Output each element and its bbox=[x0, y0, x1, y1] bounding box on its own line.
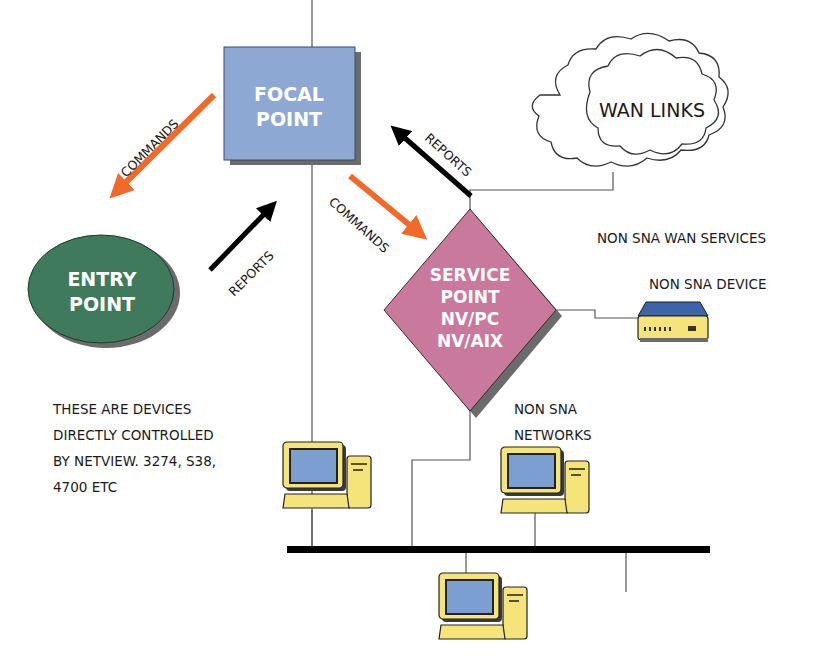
non-sna-device-icon[interactable] bbox=[638, 302, 708, 342]
computer-icon[interactable] bbox=[283, 442, 371, 508]
arrow-commands-to-entry: COMMANDS bbox=[118, 95, 214, 190]
wan-links-cloud[interactable]: WAN LINKS bbox=[532, 33, 728, 166]
wan-link-line bbox=[470, 172, 613, 210]
note-line-2: DIRECTLY CONTROLLED bbox=[53, 427, 214, 443]
arrow-reports-from-entry: REPORTS bbox=[210, 208, 277, 299]
network-link-line bbox=[412, 410, 470, 549]
computer-icon[interactable] bbox=[439, 573, 527, 639]
service-point-node[interactable]: SERVICE POINT NV/PC NV/AIX bbox=[384, 209, 562, 418]
entry-point-label-2: POINT bbox=[69, 293, 135, 315]
focal-point-label-2: POINT bbox=[256, 108, 322, 130]
device-link-line bbox=[557, 310, 640, 318]
reports-label-2: REPORTS bbox=[422, 130, 475, 180]
focal-point-node[interactable]: FOCAL POINT bbox=[224, 47, 361, 165]
network-bus bbox=[287, 546, 710, 553]
wan-links-label: WAN LINKS bbox=[599, 99, 705, 121]
service-point-label-2: POINT bbox=[440, 287, 499, 307]
reports-label-1: REPORTS bbox=[226, 248, 277, 299]
netview-architecture-diagram: WAN LINKS FOCAL POINT ENTRY POINT SERVIC… bbox=[0, 0, 835, 666]
diagram-canvas: WAN LINKS FOCAL POINT ENTRY POINT SERVIC… bbox=[0, 0, 835, 666]
arrow-reports-from-service: REPORTS bbox=[398, 130, 475, 196]
non-sna-networks-label-1: NON SNA bbox=[514, 401, 578, 417]
arrow-commands-to-service: COMMANDS bbox=[326, 176, 418, 256]
service-point-label-3: NV/PC bbox=[441, 309, 500, 329]
note-line-1: THESE ARE DEVICES bbox=[52, 401, 191, 417]
computer-icon[interactable] bbox=[501, 447, 589, 513]
non-sna-device-label: NON SNA DEVICE bbox=[649, 276, 766, 292]
service-point-label-1: SERVICE bbox=[430, 265, 511, 285]
note-line-4: 4700 ETC bbox=[53, 479, 117, 495]
focal-point-label-1: FOCAL bbox=[254, 83, 324, 105]
service-point-label-4: NV/AIX bbox=[437, 331, 503, 351]
note-line-3: BY NETVIEW. 3274, S38, bbox=[53, 453, 216, 469]
commands-label-1: COMMANDS bbox=[118, 116, 182, 180]
entry-point-label-1: ENTRY bbox=[67, 268, 136, 290]
non-sna-wan-services-label: NON SNA WAN SERVICES bbox=[597, 230, 766, 246]
non-sna-networks-label-2: NETWORKS bbox=[514, 427, 592, 443]
entry-point-node[interactable]: ENTRY POINT bbox=[28, 235, 180, 348]
